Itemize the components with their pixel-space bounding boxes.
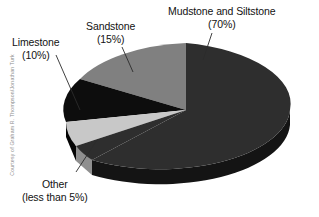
- label-sandstone-pct: (15%): [86, 33, 135, 46]
- label-limestone: Limestone (10%): [12, 36, 60, 61]
- label-mudstone-pct: (70%): [168, 18, 276, 31]
- label-limestone-name: Limestone: [12, 36, 60, 48]
- label-other-pct: (less than 5%): [22, 191, 88, 204]
- image-credit: Courtesy of Graham R. Thompson/Jonathan …: [9, 50, 15, 180]
- label-other-name: Other: [42, 178, 68, 190]
- label-mudstone-name: Mudstone and Siltstone: [168, 5, 276, 17]
- label-mudstone: Mudstone and Siltstone (70%): [168, 5, 276, 30]
- label-other: Other (less than 5%): [22, 178, 88, 203]
- label-sandstone-name: Sandstone: [86, 20, 135, 32]
- label-limestone-pct: (10%): [12, 49, 60, 62]
- label-sandstone: Sandstone (15%): [86, 20, 135, 45]
- pie-chart-figure: Mudstone and Siltstone (70%) Sandstone (…: [0, 0, 319, 217]
